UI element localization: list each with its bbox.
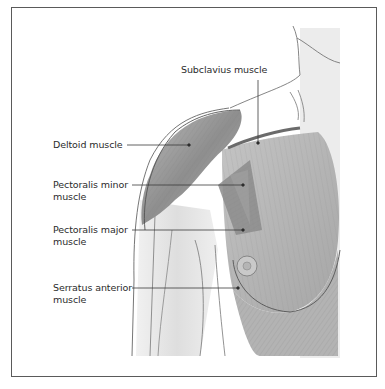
label-deltoid-muscle: Deltoid muscle <box>53 139 123 151</box>
upper-arm <box>136 200 225 356</box>
label-pectoralis-minor-muscle: Pectoralis minor muscle <box>53 179 128 203</box>
nipple <box>237 256 257 276</box>
label-serratus-anterior-muscle: Serratus anterior muscle <box>53 282 132 306</box>
label-pectoralis-major-muscle: Pectoralis major muscle <box>53 224 128 248</box>
pectoral-region <box>218 132 340 356</box>
label-subclavius-muscle: Subclavius muscle <box>181 64 267 76</box>
